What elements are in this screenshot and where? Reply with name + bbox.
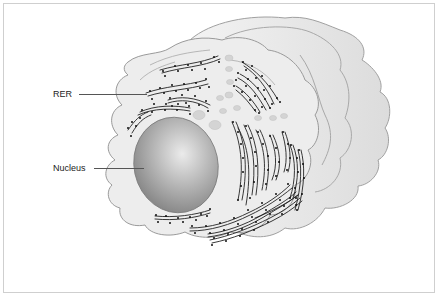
rer-label: RER [53, 89, 72, 99]
nucleus-label: Nucleus [53, 163, 86, 173]
rer-leader-line [79, 94, 147, 95]
nucleus-leader-line [94, 168, 144, 169]
